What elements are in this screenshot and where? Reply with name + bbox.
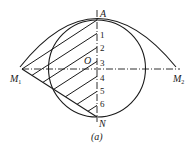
division-label-4: 4 (100, 73, 105, 83)
division-label-3: 3 (100, 58, 105, 68)
label-o: O (84, 55, 91, 66)
diagram-canvas: A N O M1 M2 1 2 3 4 5 6 (a) (0, 0, 193, 148)
line-m1-n (22, 69, 97, 117)
division-label-6: 6 (100, 99, 105, 109)
label-n: N (98, 118, 107, 129)
division-label-1: 1 (100, 30, 105, 40)
label-m1: M1 (9, 73, 21, 85)
arc-m1-a-m2 (20, 19, 176, 68)
label-a: A (99, 8, 107, 19)
caption: (a) (91, 131, 103, 143)
label-m2: M2 (172, 73, 184, 85)
division-label-2: 2 (100, 43, 105, 53)
division-label-5: 5 (100, 86, 105, 96)
